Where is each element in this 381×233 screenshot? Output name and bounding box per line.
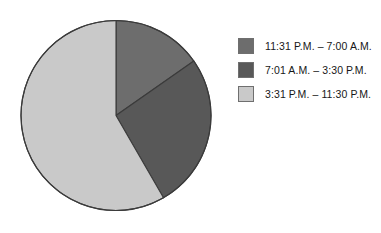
pie-chart-svg: [20, 12, 212, 219]
pie-chart-figure: 11:31 P.M. – 7:00 A.M. 7:01 A.M. – 3:30 …: [0, 0, 381, 233]
legend-item-day-shift: 7:01 A.M. – 3:30 P.M.: [238, 58, 381, 82]
legend-swatch-night-shift: [238, 38, 254, 54]
legend-swatch-day-shift: [238, 62, 254, 78]
chart-legend: 11:31 P.M. – 7:00 A.M. 7:01 A.M. – 3:30 …: [238, 34, 381, 106]
legend-label-day-shift: 7:01 A.M. – 3:30 P.M.: [265, 64, 367, 76]
legend-swatch-evening-shift: [238, 86, 254, 102]
legend-label-evening-shift: 3:31 P.M. – 11:30 P.M.: [265, 88, 371, 100]
legend-item-evening-shift: 3:31 P.M. – 11:30 P.M.: [238, 82, 381, 106]
pie-chart-plot-area: [20, 12, 212, 219]
pie-slice-group: [21, 20, 211, 210]
legend-item-night-shift: 11:31 P.M. – 7:00 A.M.: [238, 34, 381, 58]
legend-label-night-shift: 11:31 P.M. – 7:00 A.M.: [265, 40, 372, 52]
